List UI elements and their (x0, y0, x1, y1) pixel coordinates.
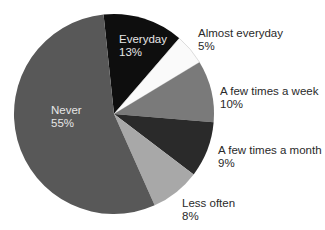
label-less-often-name: Less often (182, 197, 235, 210)
label-never-pct: 55% (51, 117, 82, 130)
label-less-often: Less often 8% (182, 197, 235, 223)
label-everyday-pct: 13% (119, 46, 167, 59)
label-never-name: Never (51, 104, 82, 117)
label-few-times-month-pct: 9% (218, 157, 322, 170)
label-everyday: Everyday 13% (119, 33, 167, 59)
label-few-times-week: A few times a week 10% (220, 85, 318, 111)
label-almost-everyday-name: Almost everyday (198, 27, 283, 40)
label-few-times-month-name: A few times a month (218, 144, 322, 157)
label-almost-everyday: Almost everyday 5% (198, 27, 283, 53)
label-never: Never 55% (51, 104, 82, 130)
label-everyday-name: Everyday (119, 33, 167, 46)
pie-slices (14, 14, 214, 214)
label-few-times-week-pct: 10% (220, 98, 318, 111)
label-few-times-month: A few times a month 9% (218, 144, 322, 170)
label-almost-everyday-pct: 5% (198, 40, 283, 53)
label-few-times-week-name: A few times a week (220, 85, 318, 98)
label-less-often-pct: 8% (182, 210, 235, 223)
